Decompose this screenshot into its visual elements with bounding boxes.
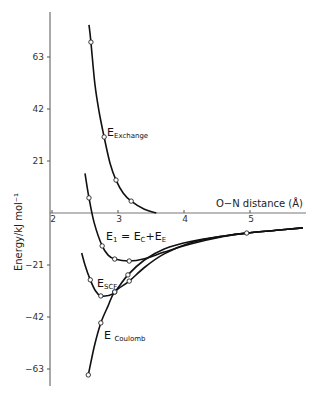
energy-chart: 634221−21−42−632345O−N distance (Å)Energ… <box>0 0 321 400</box>
label-e1: E1 = EC+EE <box>106 230 166 244</box>
axes: 634221−21−42−632345O−N distance (Å)Energ… <box>13 12 306 386</box>
data-point-marker <box>102 135 106 139</box>
data-point-marker <box>114 178 118 182</box>
data-point-marker <box>126 273 130 277</box>
x-tick-label: 4 <box>182 214 188 224</box>
curve-labels: EExchangeE1 = EC+EEESCFE Coulomb <box>97 126 166 343</box>
data-point-marker <box>113 257 117 261</box>
x-tick-label: 3 <box>116 214 122 224</box>
label-exchange: EExchange <box>107 126 148 140</box>
data-point-marker <box>127 279 131 283</box>
data-point-marker <box>99 321 103 325</box>
data-point-marker <box>129 199 133 203</box>
y-tick-label: −42 <box>25 312 44 322</box>
x-axis-title: O−N distance (Å) <box>216 197 303 209</box>
curve-exchange <box>89 25 156 213</box>
data-point-marker <box>127 259 131 263</box>
y-tick-label: −63 <box>25 364 44 374</box>
y-tick-label: −21 <box>25 260 44 270</box>
y-axis-title: Energy/kJ mol⁻¹ <box>13 193 24 271</box>
y-tick-label: 42 <box>33 104 44 114</box>
x-tick-label: 2 <box>50 214 56 224</box>
data-point-marker <box>100 244 104 248</box>
label-scf: ESCF <box>97 277 117 291</box>
data-point-marker <box>89 40 93 44</box>
y-tick-label: 21 <box>33 156 44 166</box>
data-point-marker <box>86 373 90 377</box>
label-coulomb: E Coulomb <box>104 329 146 343</box>
data-point-marker <box>88 278 92 282</box>
data-point-marker <box>245 231 249 235</box>
curve-coulomb <box>88 228 302 375</box>
data-point-marker <box>87 196 91 200</box>
y-tick-label: 63 <box>33 52 44 62</box>
x-tick-label: 5 <box>248 214 254 224</box>
data-point-marker <box>99 294 103 298</box>
